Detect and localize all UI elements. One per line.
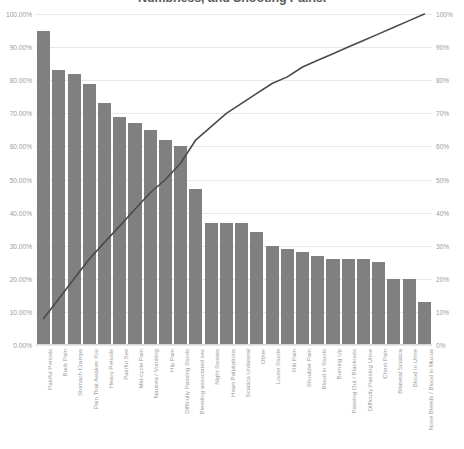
gridline — [36, 80, 432, 81]
y-tick-label-right: 20% — [436, 275, 464, 282]
x-tick-label: Difficulty Passing Urine — [366, 349, 373, 411]
y-tick-label-right: 50% — [436, 176, 464, 183]
y-tick-label-left: 40.00% — [0, 209, 32, 216]
bar[interactable] — [281, 249, 294, 345]
y-tick-label-right: 10% — [436, 308, 464, 315]
x-tick-label: Loose Stools — [274, 349, 281, 384]
bar[interactable] — [372, 262, 385, 345]
bar[interactable] — [250, 232, 263, 345]
x-tick-label: Chest Pain — [381, 349, 388, 379]
x-tick-label: Shoulder Pain — [305, 349, 312, 387]
x-tick-label: Blood in Urine — [411, 349, 418, 387]
x-tick-label: Pain That Awakes You — [92, 349, 99, 409]
y-tick-label-right: 70% — [436, 110, 464, 117]
bar[interactable] — [144, 130, 157, 345]
x-tick-label: Burning Up — [335, 349, 342, 379]
y-tick-label-right: 100% — [436, 11, 464, 18]
y-tick-label-right: 90% — [436, 44, 464, 51]
bar[interactable] — [68, 74, 81, 345]
y-tick-label-left: 20.00% — [0, 275, 32, 282]
bar[interactable] — [418, 302, 431, 345]
bar[interactable] — [235, 223, 248, 345]
bar[interactable] — [37, 31, 50, 345]
bar[interactable] — [342, 259, 355, 345]
y-tick-label-left: 30.00% — [0, 242, 32, 249]
x-tick-label: Bleeding associated sex — [198, 349, 205, 415]
x-tick-label: Hip Pain — [168, 349, 175, 372]
y-tick-label-left: 70.00% — [0, 110, 32, 117]
y-tick-label-left: 0.00% — [0, 342, 32, 349]
x-tick-label: Difficulty Passing Stools — [183, 349, 190, 414]
x-tick-label: Mid-cycle Pain — [137, 349, 144, 389]
y-tick-label-left: 80.00% — [0, 77, 32, 84]
x-tick-label: Nausea / Vomiting — [152, 349, 159, 398]
gridline — [36, 47, 432, 48]
x-tick-label: Stomach Cramps — [76, 349, 83, 396]
x-tick-label: Painful Sex — [122, 349, 129, 380]
bar[interactable] — [266, 246, 279, 345]
bar[interactable] — [113, 117, 126, 345]
x-tick-label: Nose Bleeds / Blood in Mucus — [427, 349, 434, 430]
y-tick-label-left: 60.00% — [0, 143, 32, 150]
bar[interactable] — [357, 259, 370, 345]
bar[interactable] — [403, 279, 416, 345]
x-tick-label: Other — [259, 349, 266, 364]
chart-title: Numbness, and Shooting Pains. — [0, 0, 464, 5]
bar[interactable] — [52, 70, 65, 345]
x-tick-label: Passing Out / Blackouts — [350, 349, 357, 414]
bar[interactable] — [311, 256, 324, 345]
bar[interactable] — [189, 189, 202, 345]
axis-baseline — [36, 344, 432, 345]
x-tick-label: Heart Palpitations — [229, 349, 236, 397]
x-tick-label: Painful Periods — [46, 349, 53, 390]
bar[interactable] — [128, 123, 141, 345]
y-tick-label-right: 40% — [436, 209, 464, 216]
x-tick-label: Bilateral Sciatica — [396, 349, 403, 394]
y-tick-label-right: 60% — [436, 143, 464, 150]
bar[interactable] — [83, 84, 96, 345]
bar[interactable] — [159, 140, 172, 345]
y-tick-label-right: 30% — [436, 242, 464, 249]
x-tick-label: Sciatica Unilateral — [244, 349, 251, 398]
bar[interactable] — [387, 279, 400, 345]
x-tick-label: Blood in Stools — [320, 349, 327, 390]
gridline — [36, 14, 432, 15]
bar[interactable] — [174, 146, 187, 345]
bar[interactable] — [220, 223, 233, 345]
y-tick-label-left: 10.00% — [0, 308, 32, 315]
y-tick-label-left: 100.00% — [0, 11, 32, 18]
bar[interactable] — [296, 252, 309, 345]
y-tick-label-right: 0% — [436, 342, 464, 349]
bar[interactable] — [326, 259, 339, 345]
y-tick-label-left: 50.00% — [0, 176, 32, 183]
gridline — [36, 345, 432, 346]
pareto-chart: Numbness, and Shooting Pains. 0.00%10.00… — [0, 0, 464, 449]
bar[interactable] — [205, 223, 218, 345]
y-tick-label-right: 80% — [436, 77, 464, 84]
x-tick-label: Rib Pain — [290, 349, 297, 372]
x-tick-label: Night Sweats — [213, 349, 220, 385]
y-tick-label-left: 90.00% — [0, 44, 32, 51]
x-tick-label: Back Pain — [61, 349, 68, 376]
bar[interactable] — [98, 103, 111, 345]
plot-area — [36, 14, 432, 345]
x-tick-label: Heavy Periods — [107, 349, 114, 389]
